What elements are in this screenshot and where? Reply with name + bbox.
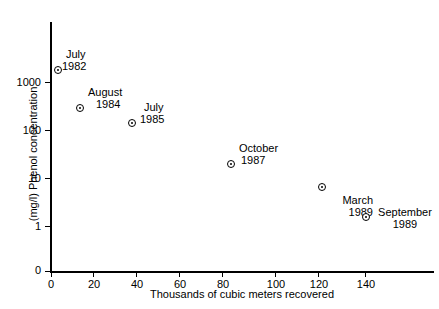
y-tick-label-0: 0 [0, 265, 41, 276]
annotation-month: July [144, 101, 164, 113]
y-tick-1000 [45, 82, 50, 83]
x-tick-20 [93, 273, 94, 277]
point-annotation-july-1982: July 1982 [62, 48, 86, 72]
annotation-year: 1984 [96, 98, 122, 110]
x-axis-line [50, 271, 434, 273]
scatter-marker-icon [76, 104, 84, 112]
point-annotation-october-1987: October 1987 [239, 142, 278, 166]
y-axis-line [50, 22, 52, 273]
x-tick-140 [365, 273, 366, 277]
scatter-marker-icon [227, 160, 235, 168]
x-tick-80 [222, 273, 223, 277]
annotation-month: October [239, 142, 278, 154]
annotation-year: 1987 [241, 154, 278, 166]
annotation-year: 1985 [140, 113, 164, 125]
scatter-marker-icon [362, 213, 370, 221]
x-tick-100 [275, 273, 276, 277]
point-annotation-july-1985: July 1985 [140, 101, 164, 125]
x-axis-title: Thousands of cubic meters recovered [50, 288, 434, 300]
phenol-concentration-scatter-chart: 1000 100 10 1 0 0 20 40 60 80 100 120 14… [0, 0, 439, 309]
y-tick-1 [45, 226, 50, 227]
point-annotation-august-1984: August 1984 [88, 86, 122, 110]
x-tick-0 [51, 273, 52, 277]
y-axis-title: (mg/l) Phenol concentration [27, 59, 39, 249]
x-tick-60 [179, 273, 180, 277]
annotation-month: September [374, 206, 436, 218]
annotation-year: 1989 [374, 218, 436, 230]
y-tick-0 [45, 271, 50, 272]
annotation-month: August [88, 86, 122, 98]
x-tick-40 [136, 273, 137, 277]
point-annotation-september-1989: September 1989 [374, 206, 436, 230]
annotation-month: March [325, 194, 373, 206]
y-tick-100 [45, 130, 50, 131]
scatter-marker-icon [54, 66, 62, 74]
scatter-marker-icon [318, 183, 326, 191]
annotation-month: July [66, 48, 86, 60]
annotation-year: 1982 [62, 60, 86, 72]
scatter-marker-icon [128, 119, 136, 127]
x-tick-120 [318, 273, 319, 277]
y-tick-10 [45, 178, 50, 179]
